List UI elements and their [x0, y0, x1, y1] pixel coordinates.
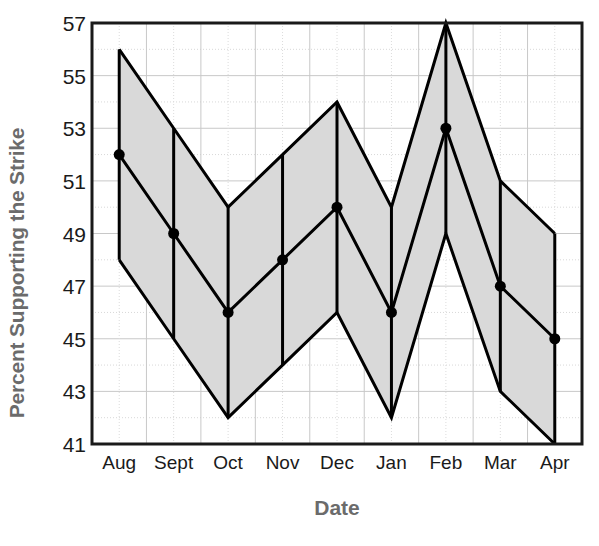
data-point-marker: [440, 123, 451, 134]
data-point-marker: [386, 307, 397, 318]
plot-area: [0, 0, 599, 546]
data-point-marker: [277, 254, 288, 265]
chart-figure: Percent Supporting the Strike Date 41434…: [0, 0, 599, 546]
data-point-marker: [168, 228, 179, 239]
data-point-marker: [549, 333, 560, 344]
data-point-marker: [223, 307, 234, 318]
data-point-marker: [495, 281, 506, 292]
data-point-marker: [114, 149, 125, 160]
data-point-marker: [332, 202, 343, 213]
